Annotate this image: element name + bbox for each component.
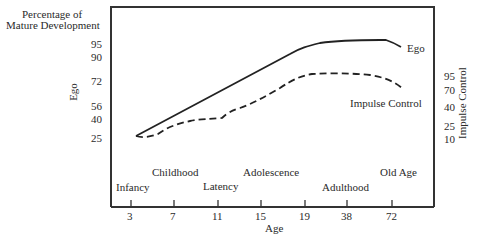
left-tick-56: 56 (91, 100, 102, 112)
x-tick-7: 7 (170, 210, 176, 222)
ego-line (136, 40, 401, 136)
stage-old-age: Old Age (380, 166, 417, 178)
x-tick-72: 72 (386, 210, 397, 222)
ego-series-label: Ego (407, 42, 425, 54)
left-tick-25: 25 (91, 132, 102, 144)
impulse-control-axis-label: Impulse Control (456, 67, 468, 139)
impulse-control-series-label: Impulse Control (350, 97, 422, 109)
right-tick-70: 70 (444, 84, 455, 96)
stage-infancy: Infancy (116, 181, 150, 193)
x-axis-title: Age (265, 222, 283, 234)
right-tick-10: 10 (444, 133, 455, 145)
left-tick-90: 90 (91, 51, 102, 63)
left-tick-40: 40 (91, 113, 102, 125)
left-tick-72: 72 (91, 75, 102, 87)
x-tick-11: 11 (212, 210, 223, 222)
x-tick-19: 19 (299, 210, 310, 222)
left-tick-95: 95 (91, 38, 102, 50)
stage-adulthood: Adulthood (322, 181, 369, 193)
x-tick-3: 3 (127, 210, 133, 222)
chart-canvas (0, 0, 478, 238)
x-tick-marks (131, 200, 392, 207)
right-tick-25: 25 (444, 120, 455, 132)
ego-axis-label: Ego (67, 83, 79, 101)
stage-adolescence: Adolescence (243, 166, 299, 178)
x-tick-15: 15 (255, 210, 266, 222)
stage-latency: Latency (203, 180, 238, 192)
right-tick-95: 95 (444, 70, 455, 82)
stage-childhood: Childhood (152, 166, 198, 178)
x-tick-38: 38 (341, 210, 352, 222)
y-axis-title-line2: Mature Development (6, 19, 100, 31)
right-tick-40: 40 (444, 101, 455, 113)
